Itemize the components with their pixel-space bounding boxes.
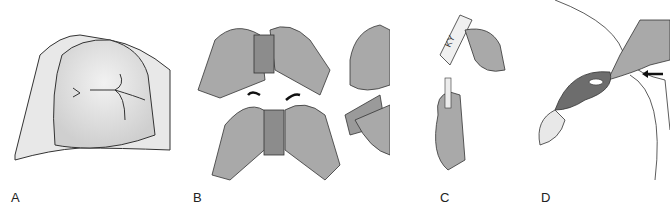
draped-patient-illustration bbox=[0, 0, 180, 210]
insert-suppository-illustration bbox=[530, 0, 670, 210]
unwrap-suppository-illustration bbox=[190, 0, 390, 210]
panel-label-a: A bbox=[11, 190, 20, 205]
panel-label-c: C bbox=[440, 190, 449, 205]
panel-label-b: B bbox=[193, 190, 202, 205]
panel-c: KY C bbox=[420, 0, 530, 210]
panel-label-d: D bbox=[541, 190, 550, 205]
panel-d: D bbox=[530, 0, 670, 210]
panel-a: A bbox=[0, 0, 180, 210]
panel-b: B bbox=[190, 0, 390, 210]
lubricate-suppository-illustration: KY bbox=[420, 0, 530, 210]
